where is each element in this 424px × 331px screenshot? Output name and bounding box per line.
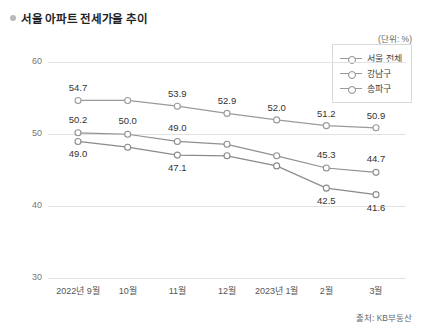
x-tick-label-2: 11월 <box>169 284 186 297</box>
y-tick-label-40: 40 <box>18 200 42 210</box>
data-label-0-4: 52.0 <box>267 102 286 113</box>
page-title: 서울 아파트 전세가율 추이 <box>21 10 147 26</box>
data-point-marker <box>125 144 131 150</box>
series-lines <box>48 48 406 278</box>
data-point-marker <box>224 141 230 147</box>
plot-area: 54.753.952.952.051.250.950.250.049.045.3… <box>48 48 406 278</box>
data-label-0-6: 50.9 <box>367 110 386 121</box>
source-note: 출처: KB부동산 <box>356 311 412 323</box>
data-label-2-6: 41.6 <box>367 202 386 213</box>
data-point-marker <box>373 192 379 198</box>
x-tick-label-4: 2023년 1월 <box>255 284 299 297</box>
data-label-2-0: 49.0 <box>69 148 88 159</box>
data-point-marker <box>125 131 131 137</box>
y-tick-label-60: 60 <box>18 56 42 66</box>
data-label-1-5: 45.3 <box>317 149 336 160</box>
y-tick-label-50: 50 <box>18 128 42 138</box>
data-point-marker <box>274 163 280 169</box>
data-point-marker <box>373 169 379 175</box>
data-label-1-1: 50.0 <box>118 115 137 126</box>
data-label-1-2: 49.0 <box>168 122 187 133</box>
data-point-marker <box>323 123 329 129</box>
bullet-dot-icon <box>10 15 16 21</box>
data-point-marker <box>75 97 81 103</box>
data-point-marker <box>75 130 81 136</box>
data-label-1-6: 44.7 <box>367 153 386 164</box>
data-label-1-0: 50.2 <box>69 114 88 125</box>
chart-header: 서울 아파트 전세가율 추이 <box>10 10 147 26</box>
data-point-marker <box>75 138 81 144</box>
chart-card: 서울 아파트 전세가율 추이 (단위: %) 서울 전체 강남구 송파구 54.… <box>0 0 424 331</box>
data-point-marker <box>174 152 180 158</box>
data-point-marker <box>274 117 280 123</box>
data-point-marker <box>224 153 230 159</box>
data-label-0-3: 52.9 <box>218 95 237 106</box>
x-tick-label-6: 3월 <box>369 284 382 297</box>
data-point-marker <box>174 138 180 144</box>
data-point-marker <box>174 103 180 109</box>
data-point-marker <box>125 97 131 103</box>
data-label-2-5: 42.5 <box>317 195 336 206</box>
data-point-marker <box>323 165 329 171</box>
data-label-2-2: 47.1 <box>168 162 187 173</box>
data-point-marker <box>274 153 280 159</box>
x-tick-label-0: 2022년 9월 <box>56 284 100 297</box>
gridline-30 <box>48 278 406 279</box>
data-label-0-2: 53.9 <box>168 88 187 99</box>
x-tick-label-1: 10월 <box>119 284 137 297</box>
data-point-marker <box>373 125 379 131</box>
data-label-0-0: 54.7 <box>69 82 88 93</box>
x-tick-label-5: 2월 <box>320 284 333 297</box>
unit-note: (단위: %) <box>378 32 412 44</box>
y-tick-label-30: 30 <box>18 272 42 282</box>
data-point-marker <box>323 185 329 191</box>
data-point-marker <box>224 110 230 116</box>
x-tick-label-3: 12월 <box>218 284 236 297</box>
data-label-0-5: 51.2 <box>317 108 336 119</box>
